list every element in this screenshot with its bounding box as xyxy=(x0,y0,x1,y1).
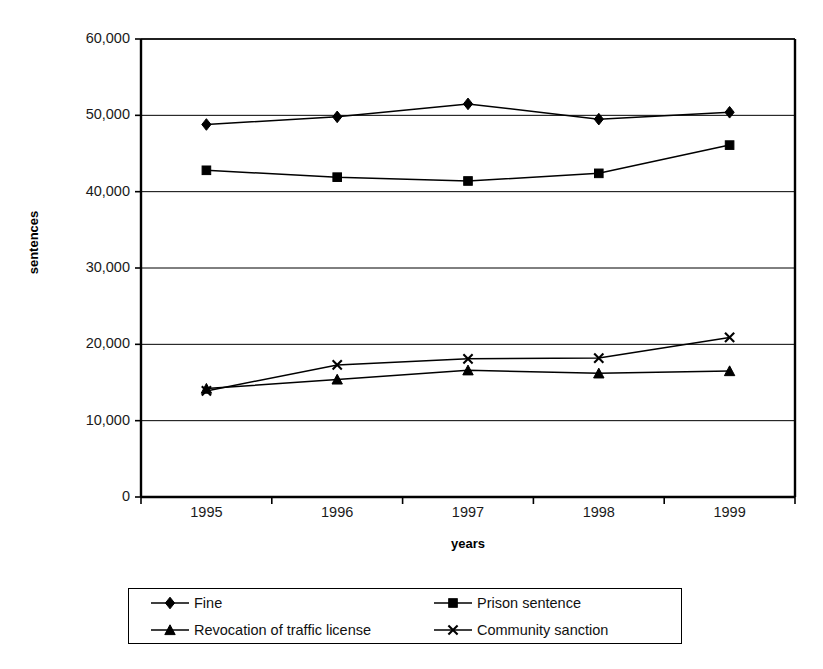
legend-item-label: Revocation of traffic license xyxy=(194,622,371,638)
legend-item-label: Fine xyxy=(194,595,222,611)
legend-marker xyxy=(449,598,458,607)
x-axis-tick-label: 1999 xyxy=(685,504,775,520)
x-axis-tick-label: 1997 xyxy=(423,504,513,520)
legend-item: Community sanction xyxy=(412,622,681,638)
x-axis-title: years xyxy=(141,536,795,551)
series-triangle xyxy=(201,365,735,393)
series-diamond xyxy=(202,98,734,130)
legend-item: Prison sentence xyxy=(412,595,681,611)
data-point-marker xyxy=(202,166,211,175)
series-square xyxy=(202,141,734,185)
data-point-marker xyxy=(333,111,342,123)
legend-square-icon xyxy=(434,595,472,611)
legend-triangle-icon xyxy=(151,622,189,638)
x-axis-tick-label: 1996 xyxy=(292,504,382,520)
x-axis-tick-label: 1998 xyxy=(554,504,644,520)
data-point-marker xyxy=(595,169,604,178)
legend-item-label: Prison sentence xyxy=(477,595,581,611)
plot-area xyxy=(0,0,823,669)
legend-item: Fine xyxy=(129,595,412,611)
data-point-marker xyxy=(725,106,734,118)
data-point-marker xyxy=(202,119,211,131)
data-point-marker xyxy=(464,177,473,186)
legend-item: Revocation of traffic license xyxy=(129,622,412,638)
legend-diamond-icon xyxy=(151,595,189,611)
series-line xyxy=(206,145,729,181)
legend-cross-icon xyxy=(434,622,472,638)
line-chart: sentences 010,00020,00030,00040,00050,00… xyxy=(0,0,823,669)
data-point-marker xyxy=(333,173,342,182)
legend-marker xyxy=(165,597,174,609)
legend-item-label: Community sanction xyxy=(477,622,608,638)
legend: FinePrison sentenceRevocation of traffic… xyxy=(128,588,682,644)
data-point-marker xyxy=(725,141,734,150)
data-point-marker xyxy=(463,98,472,110)
x-axis-tick-label: 1995 xyxy=(161,504,251,520)
